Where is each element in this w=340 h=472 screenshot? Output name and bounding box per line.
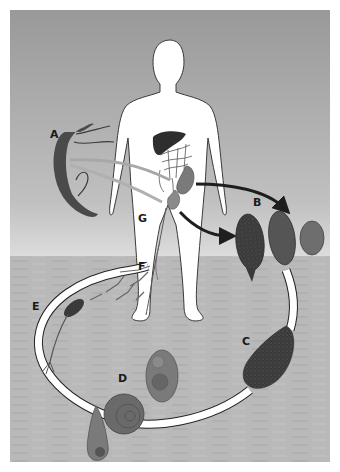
label-g: G [138, 212, 147, 225]
label-b: B [253, 196, 261, 209]
label-e: E [32, 300, 40, 313]
label-d: D [118, 372, 127, 385]
egg-light [300, 221, 324, 255]
life-cycle-diagram: A B G C D E F [10, 10, 330, 462]
label-a: A [50, 128, 59, 141]
label-f: F [138, 260, 146, 273]
label-c: C [242, 335, 250, 348]
snail-planorbis [104, 394, 144, 434]
